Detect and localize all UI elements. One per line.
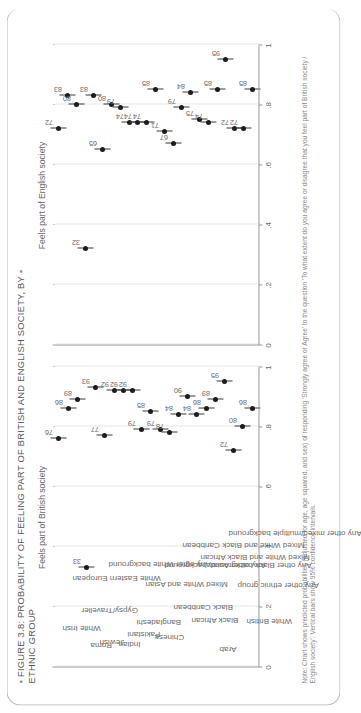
- x-tick-label-.8: .8: [263, 102, 272, 109]
- data-point-value-label: 79: [128, 419, 136, 428]
- figure-title: ▪ FIGURE 3.8: PROBABILITY OF FEELING PAR…: [14, 123, 26, 683]
- data-point-value-label: 72: [220, 440, 228, 449]
- x-axis-english: [258, 45, 259, 345]
- data-point: [91, 93, 96, 98]
- data-point-value-label: 95: [212, 49, 220, 58]
- data-point-value-label: 77: [91, 425, 99, 434]
- data-point-value-label: 92: [118, 380, 126, 389]
- data-point-value-label: 83: [80, 85, 88, 94]
- data-point: [82, 246, 87, 251]
- data-point-value-label: 86: [54, 398, 62, 407]
- data-point: [100, 147, 105, 152]
- title-bullet-left: ▪: [15, 679, 25, 683]
- data-point: [249, 406, 254, 411]
- data-point: [139, 427, 144, 432]
- data-point-value-label: 74: [194, 112, 202, 121]
- data-point: [74, 397, 79, 402]
- x-tick-.6: [258, 486, 262, 487]
- x-tick-label-.8: .8: [263, 424, 272, 431]
- panel-title-british: Feels part of British society: [36, 367, 46, 667]
- gridline-1: [52, 43, 258, 44]
- x-tick-0: [258, 666, 262, 667]
- data-point: [188, 90, 193, 95]
- x-tick-.8: [258, 426, 262, 427]
- category-label: Black African: [191, 615, 238, 624]
- data-point: [93, 385, 98, 390]
- x-tick-.6: [258, 164, 262, 165]
- x-tick-1: [258, 366, 262, 367]
- data-point-value-label: 89: [63, 389, 71, 398]
- data-point: [212, 397, 217, 402]
- data-point: [170, 141, 175, 146]
- category-label: Any other Black background: [210, 561, 311, 570]
- data-point-value-label: 72: [221, 118, 229, 127]
- data-point: [249, 87, 254, 92]
- data-point-value-label: 72: [229, 118, 237, 127]
- gridline-1: [52, 365, 258, 366]
- data-point: [130, 388, 135, 393]
- data-point-value-label: 84: [183, 404, 191, 413]
- data-point: [185, 394, 190, 399]
- data-point-value-label: 74: [133, 112, 141, 121]
- data-point-value-label: 89: [201, 389, 209, 398]
- data-point: [148, 409, 153, 414]
- data-point: [56, 436, 61, 441]
- gridline-0: [52, 343, 258, 344]
- data-point: [203, 406, 208, 411]
- gridline-.6: [52, 485, 258, 486]
- panel-title-english: Feels part of English society: [36, 45, 46, 345]
- data-point-value-label: 79: [106, 97, 114, 106]
- data-point: [73, 102, 78, 107]
- data-point: [221, 379, 226, 384]
- x-tick-label-0: 0: [263, 343, 272, 347]
- x-tick-label-.6: .6: [263, 484, 272, 491]
- category-label: Gypsy/Traveller: [81, 606, 137, 615]
- title-bullet-right: ▪: [15, 269, 25, 273]
- x-tick-0: [258, 344, 262, 345]
- plot-area-english: 7283803283658079747474857167798475748595…: [52, 45, 258, 345]
- category-label: Black Caribbean: [173, 603, 232, 612]
- x-tick-label-1: 1: [263, 365, 272, 369]
- data-point-value-label: 71: [150, 121, 158, 130]
- panel-english-society: Feels part of English society 7283803283…: [52, 45, 280, 345]
- gridline-.4: [52, 223, 258, 224]
- data-point-value-label: 92: [100, 380, 108, 389]
- x-tick-.4: [258, 224, 262, 225]
- data-point: [102, 433, 107, 438]
- data-point: [56, 126, 61, 131]
- data-point: [241, 126, 246, 131]
- data-point-value-label: 90: [174, 386, 182, 395]
- data-point: [65, 406, 70, 411]
- gridline-.2: [52, 283, 258, 284]
- data-point-value-label: 83: [53, 85, 61, 94]
- data-point: [84, 565, 89, 570]
- category-label: Bangladeshi: [136, 617, 181, 626]
- data-point: [231, 448, 236, 453]
- data-point-value-label: 85: [238, 79, 246, 88]
- data-point-value-label: 32: [71, 238, 79, 247]
- category-label: Arab: [219, 645, 236, 654]
- data-point-value-label: 86: [238, 398, 246, 407]
- x-tick-1: [258, 44, 262, 45]
- data-point-value-label: 67: [159, 133, 167, 142]
- x-tick-.8: [258, 104, 262, 105]
- data-point-value-label: 65: [89, 139, 97, 148]
- x-tick-label-.2: .2: [263, 282, 272, 289]
- data-point-value-label: 33: [72, 557, 80, 566]
- gridline-0: [52, 665, 258, 666]
- x-tick-label-0: 0: [263, 665, 272, 669]
- gridline-.6: [52, 163, 258, 164]
- data-point-value-label: 86: [192, 398, 200, 407]
- data-point-value-label: 76: [45, 428, 53, 437]
- data-point-value-label: 95: [210, 371, 218, 380]
- data-point-value-label: 74: [115, 112, 123, 121]
- x-tick-label-.6: .6: [263, 162, 272, 169]
- data-point-value-label: 79: [168, 97, 176, 106]
- data-point-value-label: 72: [45, 118, 53, 127]
- figure-title-line1: FIGURE 3.8: PROBABILITY OF FEELING PART …: [15, 276, 25, 677]
- category-label: Chinese: [154, 632, 184, 641]
- category-label: Any other ethnic group: [237, 581, 318, 590]
- data-point: [144, 120, 149, 125]
- data-point-value-label: 85: [203, 79, 211, 88]
